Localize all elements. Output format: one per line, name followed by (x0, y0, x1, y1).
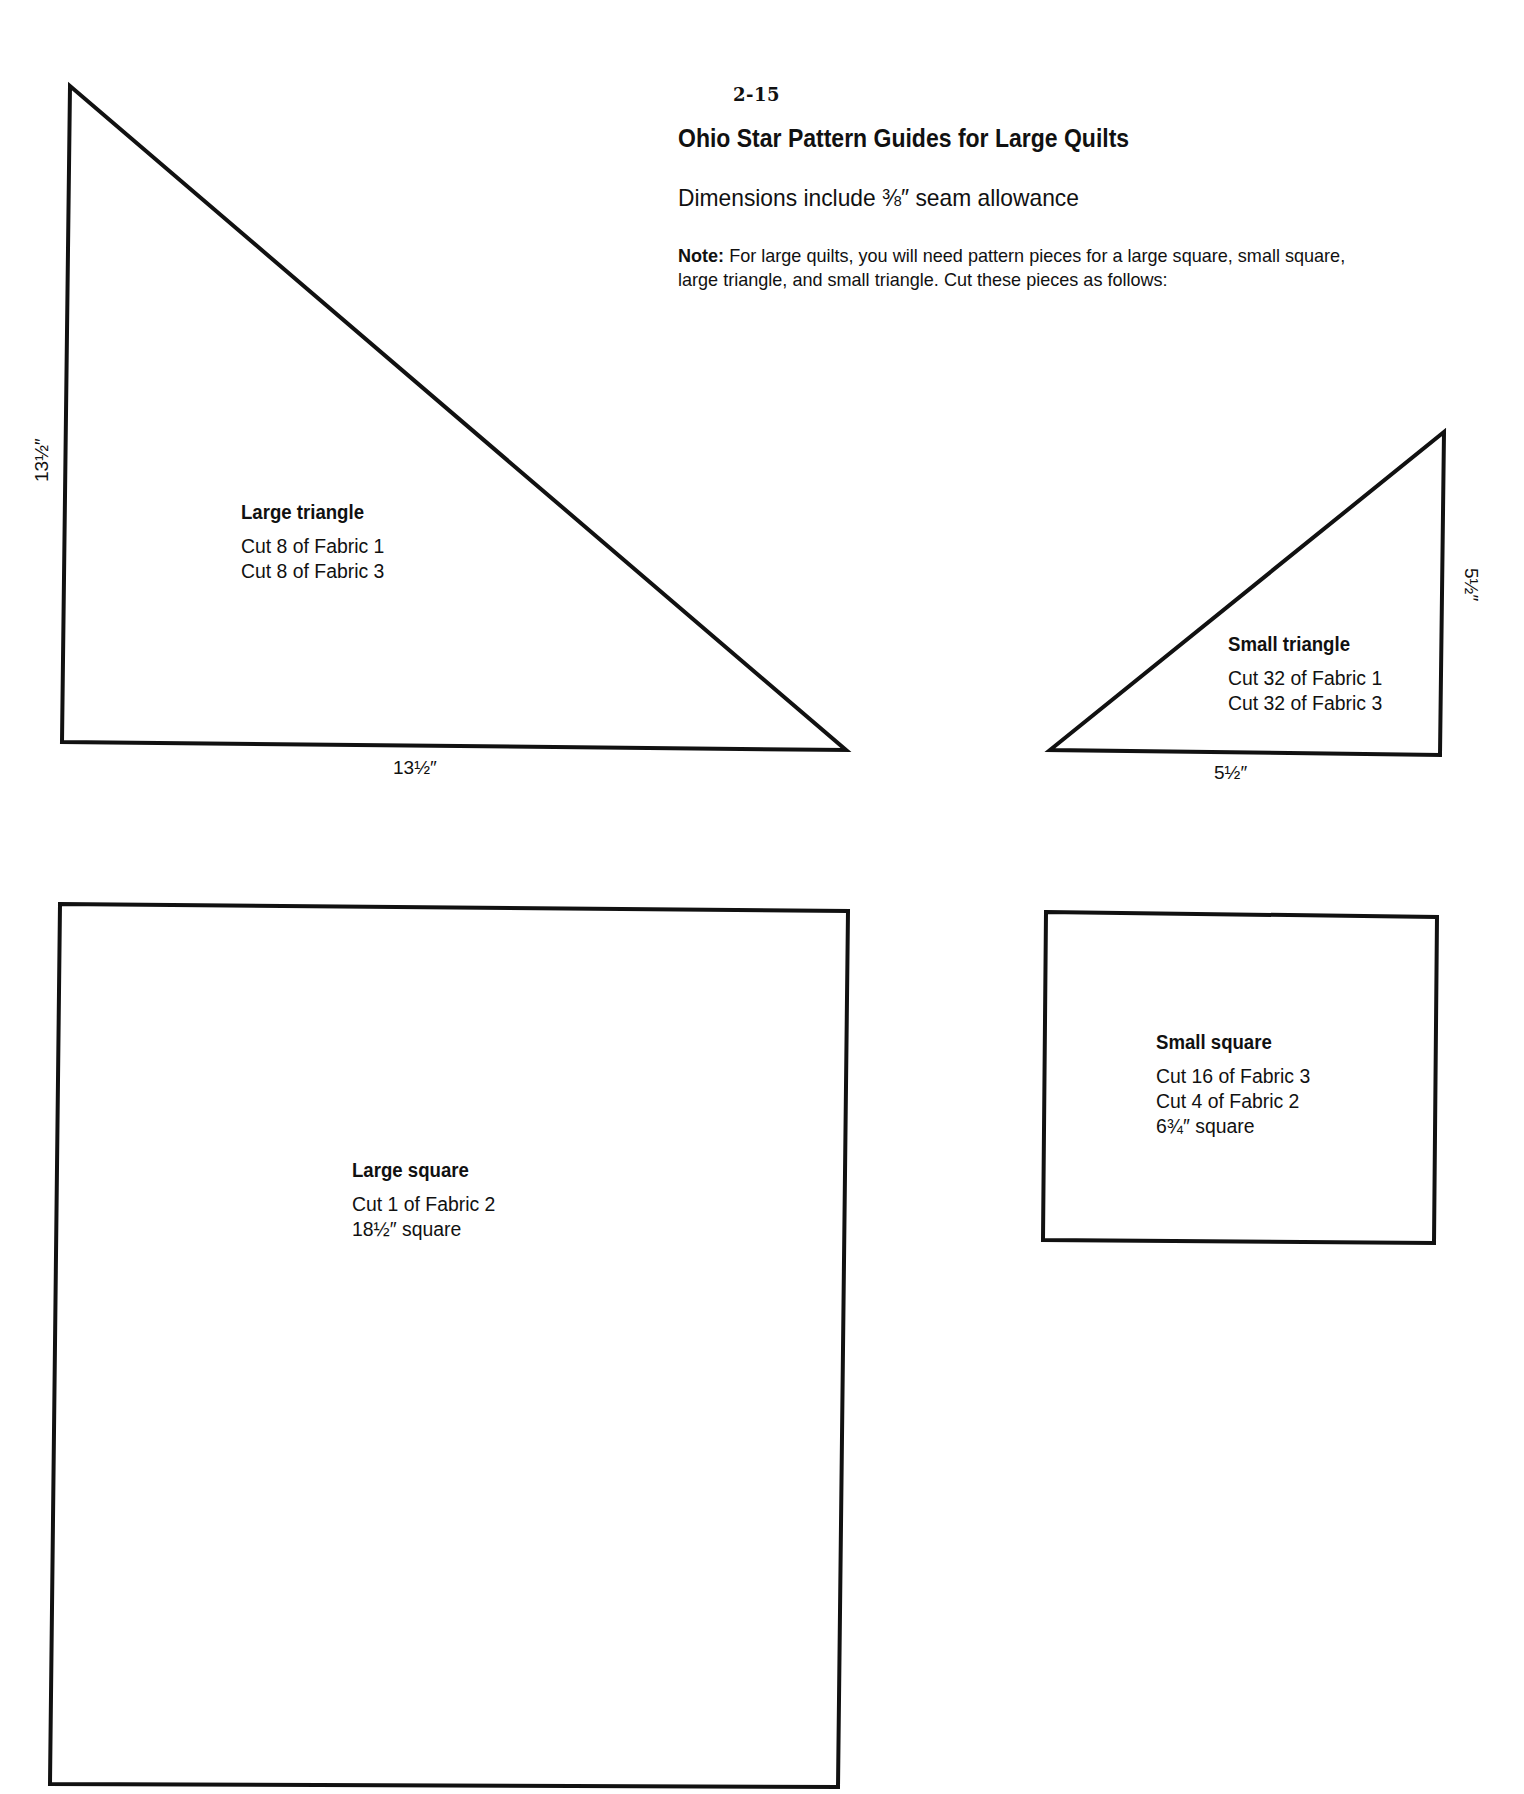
large-square-cut-1: Cut 1 of Fabric 2 (352, 1192, 495, 1217)
note-label: Note: (678, 245, 724, 266)
small-triangle-height-label: 5½″ (1460, 568, 1482, 601)
page-title: Ohio Star Pattern Guides for Large Quilt… (678, 124, 1129, 153)
small-square-label: Small square Cut 16 of Fabric 3 Cut 4 of… (1156, 1031, 1315, 1139)
note-text-1: For large quilts, you will need pattern … (724, 245, 1345, 266)
small-square-cut-1: Cut 16 of Fabric 3 (1156, 1064, 1310, 1089)
large-triangle-title: Large triangle (241, 501, 378, 524)
note-line-1: Note: For large quilts, you will need pa… (678, 244, 1345, 268)
large-square-label: Large square Cut 1 of Fabric 2 18½″ squa… (352, 1159, 500, 1242)
large-triangle-width-label: 13½″ (393, 757, 437, 779)
note-paragraph: Note: For large quilts, you will need pa… (678, 244, 1345, 292)
large-triangle-height-label: 13½″ (31, 438, 53, 482)
large-triangle-cut-1: Cut 8 of Fabric 1 (241, 534, 384, 559)
small-square-title: Small square (1156, 1031, 1304, 1054)
small-triangle-title: Small triangle (1228, 633, 1376, 656)
note-line-2: large triangle, and small triangle. Cut … (678, 268, 1345, 292)
small-triangle-cut-1: Cut 32 of Fabric 1 (1228, 666, 1382, 691)
small-triangle-width-label: 5½″ (1214, 762, 1247, 784)
large-triangle-cut-2: Cut 8 of Fabric 3 (241, 559, 384, 584)
page-number: 2-15 (733, 84, 780, 105)
large-square-size: 18½″ square (352, 1217, 495, 1242)
large-triangle-label: Large triangle Cut 8 of Fabric 1 Cut 8 o… (241, 501, 389, 584)
large-square-outline (50, 904, 848, 1787)
large-square-title: Large square (352, 1159, 489, 1182)
small-triangle-label: Small triangle Cut 32 of Fabric 1 Cut 32… (1228, 633, 1387, 716)
seam-allowance-subtitle: Dimensions include ⅜″ seam allowance (678, 184, 1079, 212)
small-triangle-cut-2: Cut 32 of Fabric 3 (1228, 691, 1382, 716)
small-square-cut-2: Cut 4 of Fabric 2 (1156, 1089, 1310, 1114)
small-square-size: 6¾″ square (1156, 1114, 1310, 1139)
